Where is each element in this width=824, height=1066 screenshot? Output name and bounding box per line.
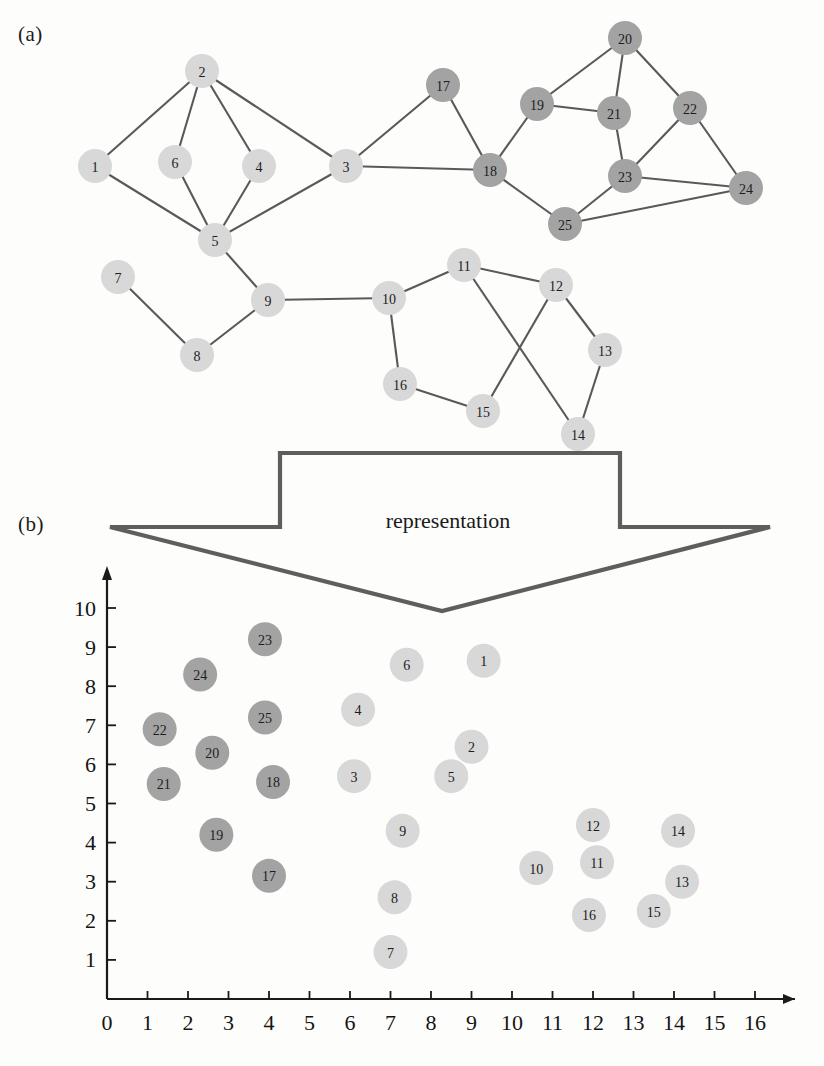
y-tick-label-7: 7 [85,713,96,738]
scatter-point-label-7: 7 [387,946,394,961]
graph-node-label-13: 13 [598,344,612,359]
x-tick-label-6: 6 [345,1010,356,1035]
scatter-point-label-25: 25 [258,711,272,726]
x-tick-label-16: 16 [744,1010,766,1035]
graph-edge [625,176,746,188]
graph-node-label-7: 7 [115,271,122,286]
scatter-point-label-5: 5 [448,770,455,785]
x-tick-label-4: 4 [264,1010,275,1035]
y-tick-label-10: 10 [74,596,96,621]
x-tick-label-0: 0 [102,1010,113,1035]
scatter-point-label-12: 12 [586,819,600,834]
figure-canvas: 1234567891011121314151617181920212223242… [0,0,824,1066]
graph-edge [268,298,389,300]
graph-node-label-18: 18 [483,164,497,179]
x-tick-label-13: 13 [623,1010,645,1035]
scatter-point-label-8: 8 [391,891,398,906]
scatter-point-label-20: 20 [205,746,219,761]
y-tick-label-4: 4 [85,830,96,855]
graph-node-label-15: 15 [476,405,490,420]
graph-node-label-14: 14 [571,428,585,443]
graph-node-label-4: 4 [256,160,263,175]
graph-node-label-6: 6 [172,156,179,171]
graph-node-label-24: 24 [739,182,753,197]
graph-edge [215,166,346,240]
y-axis-arrowhead [102,566,112,580]
y-tick-label-3: 3 [85,869,96,894]
x-tick-label-11: 11 [542,1010,563,1035]
graph-node-label-21: 21 [607,107,621,122]
graph-node-label-25: 25 [558,218,572,233]
graph-node-label-2: 2 [199,65,206,80]
graph-node-label-17: 17 [436,79,450,94]
graph-node-layer: 1234567891011121314151617181920212223242… [78,21,763,451]
x-tick-label-2: 2 [183,1010,194,1035]
scatter-point-label-1: 1 [480,654,487,669]
scatter-point-label-13: 13 [675,875,689,890]
x-tick-label-12: 12 [582,1010,604,1035]
graph-edge-layer [95,38,746,434]
graph-edge [202,71,346,166]
graph-edge [346,166,490,170]
scatter-point-label-18: 18 [266,775,280,790]
x-tick-layer: 012345678910111213141516 [102,991,767,1035]
scatter-point-layer: 1234567891011121314151617181920212223242… [143,622,699,969]
graph-node-label-23: 23 [618,170,632,185]
x-tick-label-14: 14 [663,1010,685,1035]
y-tick-label-5: 5 [85,791,96,816]
graph-node-label-10: 10 [382,292,396,307]
graph-node-label-3: 3 [343,160,350,175]
graph-node-label-1: 1 [92,160,99,175]
scatter-point-label-4: 4 [355,703,362,718]
x-tick-label-10: 10 [501,1010,523,1035]
graph-node-label-11: 11 [457,259,470,274]
scatter-point-label-3: 3 [351,770,358,785]
graph-node-label-22: 22 [683,102,697,117]
graph-node-label-20: 20 [618,32,632,47]
x-tick-label-3: 3 [223,1010,234,1035]
graph-node-label-9: 9 [265,294,272,309]
scatter-point-label-23: 23 [258,633,272,648]
scatter-point-label-17: 17 [262,869,276,884]
scatter-point-label-9: 9 [399,824,406,839]
y-tick-label-9: 9 [85,635,96,660]
y-tick-layer: 12345678910 [74,596,116,973]
y-tick-label-1: 1 [85,947,96,972]
graph-node-label-16: 16 [393,378,407,393]
x-axis-arrowhead [783,994,795,1004]
y-tick-label-8: 8 [85,674,96,699]
scatter-point-label-2: 2 [468,740,475,755]
scatter-point-label-16: 16 [582,908,596,923]
scatter-point-label-10: 10 [529,862,543,877]
figure-root: (a) (b) 12345678910111213141516171819202… [0,0,824,1066]
x-tick-label-5: 5 [304,1010,315,1035]
x-tick-label-15: 15 [704,1010,726,1035]
graph-edge [483,285,556,411]
graph-edge [565,188,746,224]
representation-arrow-label: representation [386,508,511,533]
scatter-point-label-14: 14 [671,824,685,839]
graph-node-label-19: 19 [530,98,544,113]
y-tick-label-2: 2 [85,908,96,933]
x-tick-label-7: 7 [385,1010,396,1035]
scatter-point-label-6: 6 [403,658,410,673]
graph-node-label-5: 5 [212,234,219,249]
scatter-point-label-21: 21 [157,777,171,792]
scatter-point-label-11: 11 [590,856,603,871]
scatter-point-label-15: 15 [647,905,661,920]
graph-node-label-8: 8 [194,349,201,364]
x-tick-label-9: 9 [466,1010,477,1035]
graph-edge [346,85,443,166]
graph-node-label-12: 12 [549,279,563,294]
x-tick-label-1: 1 [142,1010,153,1035]
scatter-point-label-22: 22 [153,723,167,738]
y-tick-label-6: 6 [85,752,96,777]
scatter-point-label-19: 19 [209,828,223,843]
x-tick-label-8: 8 [426,1010,437,1035]
scatter-point-label-24: 24 [193,668,207,683]
